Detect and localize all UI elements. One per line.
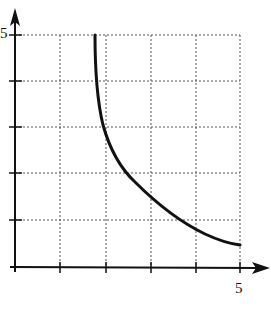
x-axis-label-5: 5 bbox=[235, 281, 243, 296]
x-axis bbox=[10, 267, 258, 268]
chart-svg bbox=[0, 0, 271, 309]
curve-line bbox=[95, 35, 240, 245]
axes bbox=[10, 18, 258, 272]
ticks bbox=[9, 35, 240, 273]
grid bbox=[15, 35, 240, 267]
y-axis-label-5: 5 bbox=[0, 26, 8, 41]
